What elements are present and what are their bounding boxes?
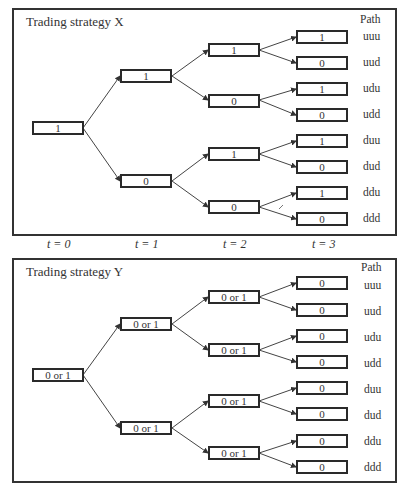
node-x-t3-dud: 0	[296, 160, 348, 174]
path-label: udd	[364, 357, 381, 369]
node-x-t3-ddd: 0	[296, 212, 348, 226]
node-y-t3-ddd: 0	[296, 460, 348, 474]
path-label: ddd	[364, 461, 381, 473]
path-label: uud	[364, 305, 381, 317]
node-y-t3-udu: 0	[296, 329, 348, 343]
node-y-t3-udd: 0	[296, 355, 348, 369]
node-y-t2-du: 0 or 1	[208, 394, 260, 408]
path-label: uuu	[363, 30, 380, 42]
path-label: udu	[363, 82, 380, 94]
path-label: ddu	[364, 435, 381, 447]
path-label: uuu	[364, 279, 381, 291]
node-y-t2-dd: 0 or 1	[208, 446, 260, 460]
node-y-t3-uuu: 0	[296, 276, 348, 290]
path-label: udd	[363, 108, 380, 120]
time-label-t3: t = 3	[312, 237, 335, 252]
node-x-t3-ddu: 1	[296, 186, 348, 200]
node-y-t3-duu: 0	[296, 381, 348, 395]
path-label: udu	[364, 331, 381, 343]
node-y-t2-uu: 0 or 1	[208, 290, 260, 304]
node-x-t3-udd: 0	[296, 108, 348, 122]
node-x-t2-uu: 1	[208, 43, 260, 57]
node-y-t3-uud: 0	[296, 303, 348, 317]
node-x-t0: 1	[32, 121, 84, 135]
path-label: ddd	[363, 212, 380, 224]
path-header: Path	[361, 261, 381, 273]
path-label: duu	[363, 134, 380, 146]
node-y-t3-ddu: 0	[296, 434, 348, 448]
panel-title: Trading strategy Y	[26, 264, 123, 280]
path-label: ddu	[363, 186, 380, 198]
node-x-t2-ud: 0	[208, 94, 260, 108]
time-label-t1: t = 1	[135, 237, 158, 252]
node-y-t3-dud: 0	[296, 407, 348, 421]
path-label: dud	[363, 160, 380, 172]
node-y-t0: 0 or 1	[32, 368, 84, 382]
node-x-t2-dd: 0	[208, 200, 260, 214]
node-x-t2-du: 1	[208, 147, 260, 161]
node-x-t3-uuu: 1	[296, 30, 348, 44]
path-label: dud	[364, 409, 381, 421]
node-y-t1-u: 0 or 1	[120, 317, 172, 331]
node-x-t3-uud: 0	[296, 56, 348, 70]
panel-title: Trading strategy X	[26, 14, 124, 30]
node-y-t2-ud: 0 or 1	[208, 343, 260, 357]
node-x-t3-udu: 1	[296, 82, 348, 96]
node-y-t1-d: 0 or 1	[120, 421, 172, 435]
node-x-t1-u: 1	[120, 69, 172, 83]
node-x-t3-duu: 1	[296, 134, 348, 148]
path-label: uud	[363, 56, 380, 68]
path-label: duu	[364, 383, 381, 395]
time-label-t0: t = 0	[47, 237, 70, 252]
node-x-t1-d: 0	[120, 174, 172, 188]
path-header: Path	[360, 13, 380, 25]
time-label-t2: t = 2	[223, 237, 246, 252]
